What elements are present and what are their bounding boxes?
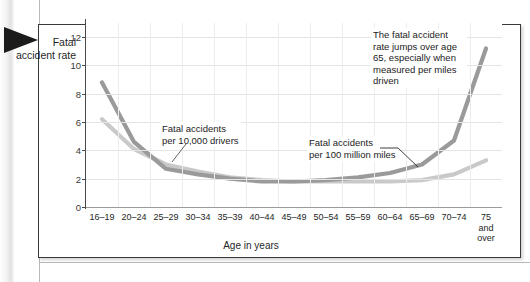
y-axis-tick-mark — [82, 207, 86, 208]
page-margin-rule-horizontal — [39, 262, 530, 263]
figure-page: Fatal accident rate 024681012 16–1920–24… — [0, 0, 530, 282]
x-axis-tick-label: 35–39 — [217, 212, 242, 223]
x-axis-tick-label: 70–74 — [441, 212, 466, 223]
gridline-vertical — [470, 23, 471, 207]
annotation-per-10000-drivers: Fatal accidents per 10,000 drivers — [160, 122, 241, 147]
y-axis-tick-label: 0 — [76, 202, 81, 213]
gridline-horizontal — [86, 122, 502, 123]
x-axis-tick-label: 40–44 — [249, 212, 274, 223]
gridline-vertical — [118, 23, 119, 207]
x-axis-tick-label: 16–19 — [89, 212, 114, 223]
gridline-horizontal — [86, 94, 502, 95]
x-axis-line — [85, 207, 502, 208]
gridline-horizontal — [86, 150, 502, 151]
y-axis-tick-label: 4 — [76, 145, 81, 156]
y-axis-tick-label: 12 — [70, 32, 81, 43]
y-axis-tick-label: 10 — [70, 60, 81, 71]
y-axis-line — [85, 19, 86, 209]
gridline-vertical — [246, 23, 247, 207]
gridline-vertical — [182, 23, 183, 207]
y-axis-title: Fatal accident rate — [14, 36, 76, 61]
x-axis-tick-label: 30–34 — [185, 212, 210, 223]
y-axis-tick-mark — [82, 65, 86, 66]
x-axis-tick-label: 45–49 — [281, 212, 306, 223]
x-axis-tick-label: 20–24 — [121, 212, 146, 223]
y-axis-tick-mark — [82, 150, 86, 151]
y-axis-tick-label: 6 — [76, 117, 81, 128]
gridline-vertical — [278, 23, 279, 207]
gridline-vertical — [342, 23, 343, 207]
x-axis-title: Age in years — [86, 240, 416, 251]
y-axis-tick-mark — [82, 37, 86, 38]
x-axis-tick-label: 75 and over — [477, 212, 495, 244]
gridline-vertical — [310, 23, 311, 207]
y-axis-tick-mark — [82, 94, 86, 95]
x-axis-tick-label: 55–59 — [345, 212, 370, 223]
y-axis-tick-mark — [82, 122, 86, 123]
x-axis-tick-label: 25–29 — [153, 212, 178, 223]
annotation-per-100-million-miles: Fatal accidents per 100 million miles — [307, 136, 398, 161]
x-axis-tick-label: 50–54 — [313, 212, 338, 223]
gridline-horizontal — [86, 179, 502, 180]
x-axis-tick-label: 60–64 — [377, 212, 402, 223]
x-axis-tick-label: 65–69 — [409, 212, 434, 223]
y-axis-tick-label: 8 — [76, 88, 81, 99]
gridline-vertical — [214, 23, 215, 207]
y-axis-tick-mark — [82, 179, 86, 180]
gridline-vertical — [150, 23, 151, 207]
y-axis-tick-label: 2 — [76, 173, 81, 184]
annotation-rate-jumps-over-65: The fatal accident rate jumps over age 6… — [371, 28, 467, 88]
